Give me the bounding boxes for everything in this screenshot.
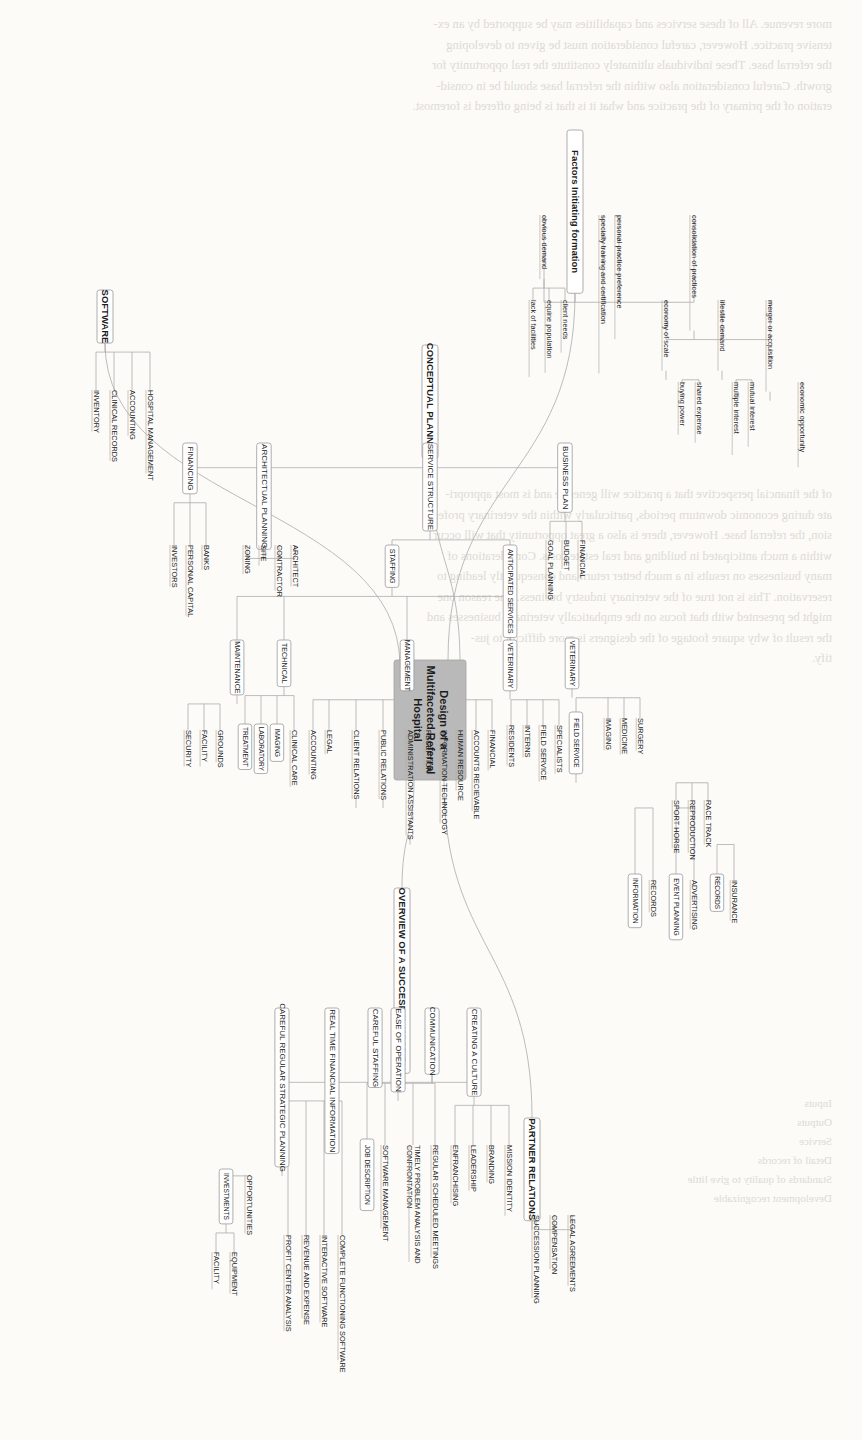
node-business-plan: BUSINESS PLAN [558, 443, 573, 512]
mindmap-leaf-text: SOFTWARE MANAGEMENT [381, 1145, 390, 1242]
mindmap-leaf-text: ENFRANCHISING [451, 1145, 460, 1206]
mindmap-leaf-text: shared expense [695, 382, 704, 435]
mindmap-leaf-text: INTERACTIVE SOFTWARE [320, 1235, 329, 1328]
node-personal-practice-preference: personal practice preference [615, 215, 624, 339]
mindmap-node-label: COMMUNICATION [428, 1007, 437, 1076]
mindmap-leaf-text: INSURANCE [730, 880, 739, 924]
mindmap-leaf-text: PERSONAL CAPITAL [186, 545, 195, 617]
mindmap-leaf-text: ADMINISTRATION ASSISTANTS [406, 730, 415, 840]
node-succession-planning: SUCCESSION PLANNING [532, 1215, 541, 1304]
mindmap-leaf-text: MISSION IDENTITY [505, 1145, 514, 1212]
node-buying-power: buying power [678, 382, 687, 435]
node-investors: INVESTORS [170, 545, 179, 588]
node-interns: INTERNS [523, 725, 532, 758]
mindmap-leaf-text: ACCOUNTING [309, 730, 318, 780]
mindmap-leaf-text: REPRODUCTION [688, 800, 697, 860]
node-creating-a-culture: CREATING A CULTURE [467, 1008, 481, 1096]
mindmap-node-label: REAL TIME FINANCIAL INFORMATION [328, 1009, 337, 1152]
node-personal-capital: PERSONAL CAPITAL [186, 545, 195, 617]
mindmap-leaf-text: consolidation of practices [690, 215, 699, 298]
node-financial: FINANCIAL [578, 540, 587, 582]
mindmap-leaf-text: lifestile demand [718, 300, 727, 351]
node-economic-opportunity: economic opportunity [798, 382, 807, 467]
mindmap-node-label: ANTICIPATED SERVICES [506, 549, 515, 634]
mindmap-leaf-text: PROFIT CENTER ANALYSIS [284, 1235, 293, 1332]
node-maintenance: MAINTENANCE [230, 640, 244, 695]
mindmap-node-label: MANAGEMENT [403, 640, 412, 692]
node-anticipated-services: ANTICIPATED SERVICES [503, 545, 517, 638]
mindmap-leaf-text: SPECIALISTS [555, 725, 564, 773]
branch-factors: Factors Initiating formation [567, 130, 583, 293]
node-legal: LEGAL [325, 730, 334, 754]
node-field-service-staff: FIELD SERVICE [539, 725, 548, 782]
mindmap-leaf-text: FINANCIAL [488, 730, 497, 769]
node-careful-regular-strategic-planning: CAREFUL REGULAR STRATEGIC PLANNING [275, 1003, 289, 1171]
mindmap-node-label: INFORMATION [632, 878, 639, 924]
mindmap-leaf-text: CLINICAL CARE [290, 730, 299, 786]
mindmap-leaf-text: SUCCESSION PLANNING [532, 1215, 541, 1304]
node-imaging: IMAGING [604, 718, 613, 750]
node-reception: RECEPTION [424, 730, 433, 773]
branch-software: SOFTWARE [97, 290, 113, 344]
node-consolidation-of-practices: consolidation of practices [690, 215, 699, 331]
node-field-service: FIELD SERVICE [569, 712, 583, 774]
mindmap-leaf-text: CONTRACTOR [275, 545, 284, 597]
mindmap-node-label: TREATMENT [242, 727, 249, 767]
mindmap-leaf-text: TIMELY PROBLEM ANALYSIS ANDCONFRONTATION [405, 1145, 423, 1264]
node-interactive-software: INTERACTIVE SOFTWARE [320, 1235, 329, 1328]
node-profit-center-analysis: PROFIT CENTER ANALYSIS [284, 1235, 293, 1332]
mindmap-leaf-text: HUMAN RESOURCE [456, 730, 465, 801]
node-information-technology: INFORMATION TECHNOLOGY [440, 730, 449, 835]
node-mission-identity: MISSION IDENTITY [505, 1145, 514, 1216]
node-administration-assistants: ADMINISTRATION ASSISTANTS [406, 730, 415, 840]
connector-business-plan-children [550, 512, 582, 540]
node-race-track: RACE TRACK [704, 800, 713, 848]
node-mutual-interest: mutual interest [748, 382, 757, 447]
node-ease-of-operation: EASE OF OPERATION [391, 1008, 405, 1092]
node-budget: BUDGET [562, 540, 571, 571]
node-careful-staffing: CAREFUL STAFFING [368, 1008, 382, 1088]
node-clinical-records: CLINICAL RECORDS [110, 390, 119, 462]
node-accounting-software: ACCOUNTING [128, 390, 137, 440]
mindmap-node-label: FIELD SERVICE [573, 718, 580, 768]
node-technical: TECHNICAL [277, 640, 291, 687]
node-revenue-and-expense: REVENUE AND EXPENSE [302, 1235, 311, 1325]
node-opportunities: OPPORTUNITIES [245, 1175, 254, 1235]
connector-field-service-children [576, 774, 708, 800]
mindmap-node-label: FINANCING [186, 446, 195, 490]
node-shared-expense: shared expense [695, 382, 704, 443]
mindmap-leaf-text: PUBLIC RELATIONS [379, 730, 388, 800]
mindmap-node-label: MAINTENANCE [233, 641, 242, 694]
node-branding: BRANDING [487, 1145, 496, 1184]
node-specialists: SPECIALISTS [555, 725, 564, 774]
mindmap-node-label: IMAGING [274, 728, 281, 757]
connector-conceptual-children [190, 443, 565, 468]
mindmap-node-label: RECORDS [714, 876, 721, 910]
mindmap-leaf-text: CLIENT RELATIONS [352, 730, 361, 800]
mindmap-leaf-text: obvious demand [540, 215, 549, 269]
mindmap-leaf-text: mutual interest [748, 382, 757, 430]
mindmap-leaf-text: FINANCIAL [578, 540, 587, 579]
node-complete-functioning-software: COMPLETE FUNCTIONING SOFTWARE [338, 1235, 347, 1373]
node-management: MANAGEMENT [400, 640, 414, 692]
connector-root-to-partner [444, 780, 532, 1118]
node-timely-problem-analysis: TIMELY PROBLEM ANALYSIS ANDCONFRONTATION [405, 1145, 423, 1264]
mindmap-leaf-text: MEDICINE [620, 718, 629, 754]
mindmap-leaf-text: BRANDING [487, 1145, 496, 1184]
mindmap-node-label: CAREFUL STAFFING [371, 1009, 380, 1087]
node-architect: ARCHITECT [291, 545, 300, 588]
node-communication: COMMUNICATION [425, 1007, 439, 1076]
node-surgery: SURGERY [636, 718, 645, 754]
mindmap-leaf-text: INVESTORS [170, 545, 179, 588]
connector-financing-children [174, 494, 206, 545]
node-compensation: COMPENSATION [550, 1215, 559, 1274]
connector-investments-children [216, 1224, 234, 1252]
mindmap-node-label: ARCHITECTUAL PLANNING [260, 444, 269, 548]
mindmap-leaf-text: RECORDS [649, 880, 658, 917]
node-hospital-management: HOSPITAL MANAGEMENT [146, 390, 155, 481]
page-canvas: more revenue. All of these services and … [0, 0, 862, 1440]
mindmap-leaf-text: OPPORTUNITIES [245, 1175, 254, 1235]
node-obvious-demand: obvious demand [540, 215, 549, 279]
node-equipment: EQUIPMENT [230, 1252, 239, 1296]
node-veterinary-staffing: VETERINARY [503, 640, 517, 691]
